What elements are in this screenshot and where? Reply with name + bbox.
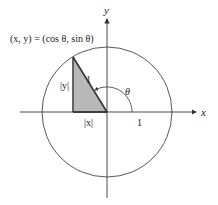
point-coordinates-label: (x, y) = (cos θ, sin θ): [10, 33, 94, 45]
horizontal-leg-label: |x|: [84, 117, 93, 128]
theta-label: θ: [125, 86, 130, 97]
unit-circle-diagram: y x (x, y) = (cos θ, sin θ) 1 |y| |x| θ …: [0, 0, 218, 205]
x-axis-label: x: [200, 106, 206, 118]
vertical-leg-label: |y|: [60, 80, 69, 91]
hypotenuse-label: 1: [86, 74, 91, 85]
unit-tick-label: 1: [137, 117, 142, 128]
y-axis-label: y: [103, 4, 109, 16]
